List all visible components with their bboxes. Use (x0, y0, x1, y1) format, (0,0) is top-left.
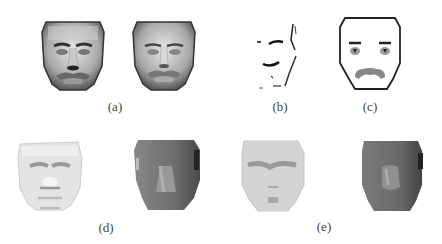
cartoon-face-c (337, 15, 403, 92)
albedo-face-e (240, 137, 306, 213)
albedo-face-d (16, 138, 84, 213)
face-image-a1 (40, 18, 106, 93)
panel-label-a: (a) (95, 99, 135, 115)
panel-label-d: (d) (86, 220, 126, 236)
face-edge-map-b (255, 20, 315, 95)
panel-label-c: (c) (350, 99, 390, 115)
shading-face-e (360, 137, 426, 213)
panel-label-e: (e) (304, 219, 344, 235)
face-image-a2 (131, 18, 197, 93)
shading-face-d (134, 136, 202, 212)
panel-label-b: (b) (260, 99, 300, 115)
